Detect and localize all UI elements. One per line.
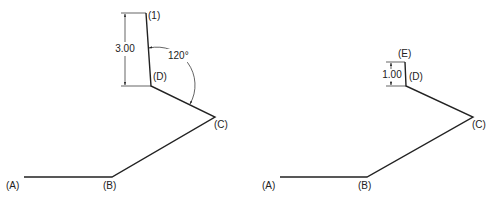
- left-label-1: (1): [148, 10, 160, 21]
- right-label-d: (D): [409, 71, 423, 82]
- left-label-a: (A): [6, 180, 19, 191]
- left-label-b: (B): [103, 180, 116, 191]
- left-polyline: [24, 13, 215, 177]
- right-label-c: (C): [472, 119, 486, 130]
- left-dimension-text: 3.00: [115, 43, 135, 54]
- right-polyline: [280, 62, 473, 177]
- left-label-d: (D): [153, 71, 167, 82]
- right-label-a: (A): [262, 180, 275, 191]
- left-label-c: (C): [214, 119, 228, 130]
- right-dimension-text: 1.00: [382, 69, 402, 80]
- right-label-b: (B): [358, 180, 371, 191]
- diagram-canvas: 3.00 120° (A) (B) (C) (D) (1) 1.00 (A) (…: [0, 0, 494, 201]
- right-label-e: (E): [398, 48, 411, 59]
- left-angle-text: 120°: [168, 50, 189, 61]
- right-figure: 1.00 (A) (B) (C) (D) (E): [262, 48, 486, 191]
- left-figure: 3.00 120° (A) (B) (C) (D) (1): [6, 10, 228, 191]
